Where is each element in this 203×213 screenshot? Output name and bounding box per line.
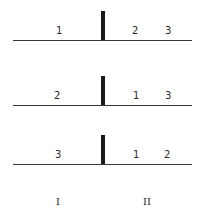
baseline <box>13 105 192 106</box>
diagram-row-1: 1 2 3 <box>0 1 203 41</box>
column-label-left: I <box>56 196 60 207</box>
right-item-2: 3 <box>165 26 171 36</box>
right-item-1: 1 <box>133 91 139 101</box>
right-item-2: 3 <box>165 91 171 101</box>
divider-bar <box>101 76 105 106</box>
left-item: 1 <box>56 26 62 36</box>
left-item: 2 <box>54 91 60 101</box>
divider-bar <box>101 11 105 41</box>
diagram-row-2: 2 1 3 <box>0 66 203 106</box>
diagram-row-3: 3 1 2 <box>0 125 203 165</box>
baseline <box>13 40 192 41</box>
right-item-1: 2 <box>132 26 138 36</box>
column-label-right: II <box>143 196 151 207</box>
right-item-2: 2 <box>164 150 170 160</box>
baseline <box>13 164 192 165</box>
right-item-1: 1 <box>133 150 139 160</box>
divider-bar <box>101 135 105 165</box>
left-item: 3 <box>55 150 61 160</box>
